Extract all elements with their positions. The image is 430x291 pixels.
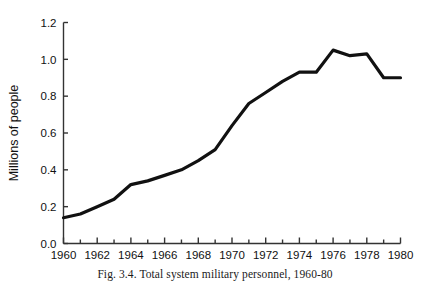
x-axis-tick-label: 1962 [84, 249, 110, 261]
y-axis-tick-label: 0.4 [41, 164, 58, 176]
figure-container: 0.00.20.40.60.81.01.21960196219641966196… [0, 0, 430, 291]
x-axis-tick-label: 1976 [320, 249, 346, 261]
data-line-series-0 [64, 50, 401, 218]
y-axis-tick-label: 0.8 [41, 90, 57, 102]
y-axis-tick-label: 0.2 [41, 201, 57, 213]
y-axis-tick-label: 1.2 [41, 17, 57, 29]
x-axis-tick-label: 1978 [354, 249, 380, 261]
x-axis-tick-label: 1960 [51, 249, 77, 261]
x-axis-tick-label: 1972 [253, 249, 279, 261]
x-axis-tick-label: 1968 [186, 249, 212, 261]
y-axis-label: Millions of people [7, 85, 21, 182]
figure-caption: Fig. 3.4. Total system military personne… [0, 268, 430, 280]
x-axis-tick-label: 1980 [388, 249, 414, 261]
x-axis-tick-label: 1970 [219, 249, 245, 261]
x-axis-tick-label: 1974 [287, 249, 313, 261]
x-axis-tick-label: 1966 [152, 249, 178, 261]
line-chart: 0.00.20.40.60.81.01.21960196219641966196… [0, 0, 430, 291]
x-axis-tick-label: 1964 [118, 249, 144, 261]
y-axis-tick-label: 0.6 [41, 127, 57, 139]
y-axis-tick-label: 1.0 [41, 54, 57, 66]
